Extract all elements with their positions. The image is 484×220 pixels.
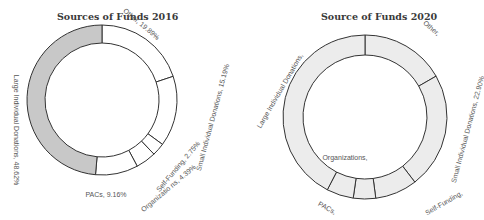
segment-label: Large Individual Donations, 48.62% xyxy=(12,75,20,186)
segment-label: Organizations, xyxy=(322,154,367,162)
donut-segment-other xyxy=(102,25,173,82)
donut-segment-organizations xyxy=(353,178,376,199)
donut-segment-small-individual-donations xyxy=(148,76,177,144)
segment-label: PACs, 9.16% xyxy=(85,191,126,198)
donut-segment-other xyxy=(365,35,436,86)
donut-segment-large-individual-donations xyxy=(27,25,102,175)
segment-label: Self-Funding, xyxy=(424,189,464,217)
segment-label: Other, xyxy=(422,19,441,37)
charts-canvas: Other, 19.89%Small Individual Donations,… xyxy=(0,0,484,220)
donut-segment-small-individual-donations xyxy=(403,76,447,182)
segment-label: Small Individual Donations, 15.19% xyxy=(195,63,230,171)
donut-segment-pacs xyxy=(96,150,138,175)
segment-label: Small Individual Donations, 22.90% xyxy=(450,75,484,183)
segment-label: PACs, xyxy=(317,200,337,216)
